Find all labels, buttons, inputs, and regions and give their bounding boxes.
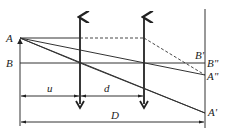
label-d: d — [104, 82, 110, 94]
ray-to-A-double-prime — [20, 38, 205, 75]
label-B-double-prime: B" — [207, 57, 219, 69]
label-B-prime: B' — [195, 49, 205, 61]
optics-diagram: A B u d D B' B" A" A' — [0, 0, 226, 139]
label-A-prime: A' — [207, 106, 218, 118]
label-u: u — [47, 82, 53, 94]
label-A: A — [5, 32, 13, 44]
label-D: D — [110, 109, 119, 121]
ray-to-A-prime-2 — [20, 38, 80, 63]
label-A-double-prime: A" — [206, 70, 219, 82]
label-B: B — [6, 57, 13, 69]
